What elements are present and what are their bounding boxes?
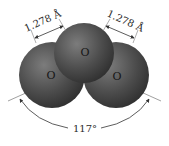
atom-label-left: O <box>46 69 55 82</box>
bond-length-label-right: 1.278 Å <box>105 8 146 34</box>
ozone-diagram: O O O 1.278 Å 1.278 Å 117° <box>0 0 169 146</box>
angle-extension-line-right <box>141 92 161 101</box>
atom-label-right: O <box>112 70 121 83</box>
bond-angle-label: 117° <box>73 123 97 134</box>
bond-length-label-left: 1.278 Å <box>23 8 64 34</box>
atom-label-center: O <box>80 46 89 59</box>
